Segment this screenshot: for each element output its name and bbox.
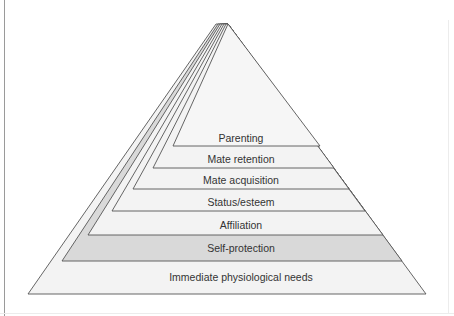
label-parenting: Parenting xyxy=(14,132,454,144)
label-mate-retention: Mate retention xyxy=(14,153,454,165)
label-status-esteem: Status/esteem xyxy=(14,196,454,208)
label-self-protection: Self-protection xyxy=(14,242,454,254)
label-affiliation: Affiliation xyxy=(14,219,454,231)
label-mate-acquisition: Mate acquisition xyxy=(14,174,454,186)
label-immediate-physiological-needs: Immediate physiological needs xyxy=(14,271,454,283)
